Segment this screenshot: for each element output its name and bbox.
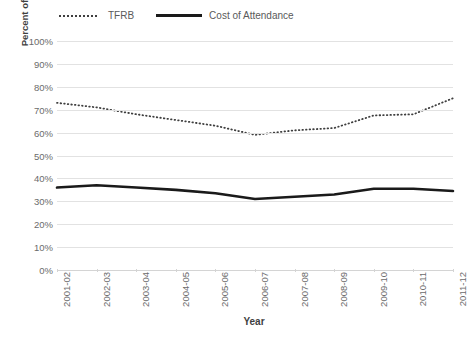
x-axis-tick-mark xyxy=(176,269,177,272)
series-line-tfrb xyxy=(57,98,453,135)
series-line-cost-of-attendance xyxy=(57,185,453,199)
y-axis-tick-label: 100% xyxy=(7,36,53,47)
y-axis-tick-label: 40% xyxy=(7,173,53,184)
legend-label-cost-of-attendance: Cost of Attendance xyxy=(209,10,294,21)
y-axis-tick-label: 70% xyxy=(7,104,53,115)
gridline xyxy=(57,178,453,179)
x-axis-tick-label: 2005-06 xyxy=(219,272,230,307)
x-axis-tick-labels: 2001-022002-032003-042004-052005-062006-… xyxy=(57,272,453,316)
gridline xyxy=(57,224,453,225)
y-axis-tick-label: 50% xyxy=(7,150,53,161)
x-axis-tick-label: 2008-09 xyxy=(338,272,349,307)
x-axis-title: Year xyxy=(55,316,453,327)
gridline xyxy=(57,41,453,42)
x-axis-tick-mark xyxy=(255,269,256,272)
y-axis-tick-label: 10% xyxy=(7,242,53,253)
x-axis-tick-mark xyxy=(453,269,454,272)
x-axis-tick-mark xyxy=(413,269,414,272)
y-axis-tick-label: 20% xyxy=(7,219,53,230)
chart-legend: TFRB Cost of Attendance xyxy=(0,10,460,21)
gridline xyxy=(57,247,453,248)
solid-line-icon xyxy=(156,11,202,21)
x-axis-tick-mark xyxy=(215,269,216,272)
gridline xyxy=(57,87,453,88)
y-axis-tick-label: 0% xyxy=(7,265,53,276)
y-axis-tick-label: 80% xyxy=(7,81,53,92)
legend-item-cost-of-attendance: Cost of Attendance xyxy=(156,10,294,21)
x-axis-tick-mark xyxy=(136,269,137,272)
x-axis-tick-label: 2010-11 xyxy=(417,272,428,306)
gridline xyxy=(57,110,453,111)
x-axis-tick-mark xyxy=(57,269,58,272)
gridline xyxy=(57,133,453,134)
x-axis-tick-label: 2006-07 xyxy=(259,272,270,307)
x-axis-tick-mark xyxy=(374,269,375,272)
x-axis-tick-label: 2007-08 xyxy=(299,272,310,307)
x-axis-tick-label: 2009-10 xyxy=(378,272,389,307)
x-axis-tick-label: 2003-04 xyxy=(140,272,151,307)
x-axis-tick-label: 2002-03 xyxy=(101,272,112,307)
x-axis-tick-mark xyxy=(97,269,98,272)
dotted-line-icon xyxy=(55,11,101,21)
x-axis-tick-label: 2001-02 xyxy=(61,272,72,307)
y-axis-tick-label: 90% xyxy=(7,58,53,69)
legend-item-tfrb: TFRB xyxy=(55,10,134,21)
x-axis-tick-mark xyxy=(295,269,296,272)
legend-label-tfrb: TFRB xyxy=(108,10,134,21)
x-axis-tick-label: 2011-12 xyxy=(457,272,468,306)
y-axis-tick-label: 60% xyxy=(7,127,53,138)
gridline xyxy=(57,64,453,65)
x-axis-tick-label: 2004-05 xyxy=(180,272,191,307)
plot-area xyxy=(57,41,453,270)
y-axis-tick-labels: 0%10%20%30%40%50%60%70%80%90%100% xyxy=(0,41,53,270)
x-axis-tick-mark xyxy=(334,269,335,272)
y-axis-tick-label: 30% xyxy=(7,196,53,207)
gridline xyxy=(57,201,453,202)
gridline xyxy=(57,156,453,157)
